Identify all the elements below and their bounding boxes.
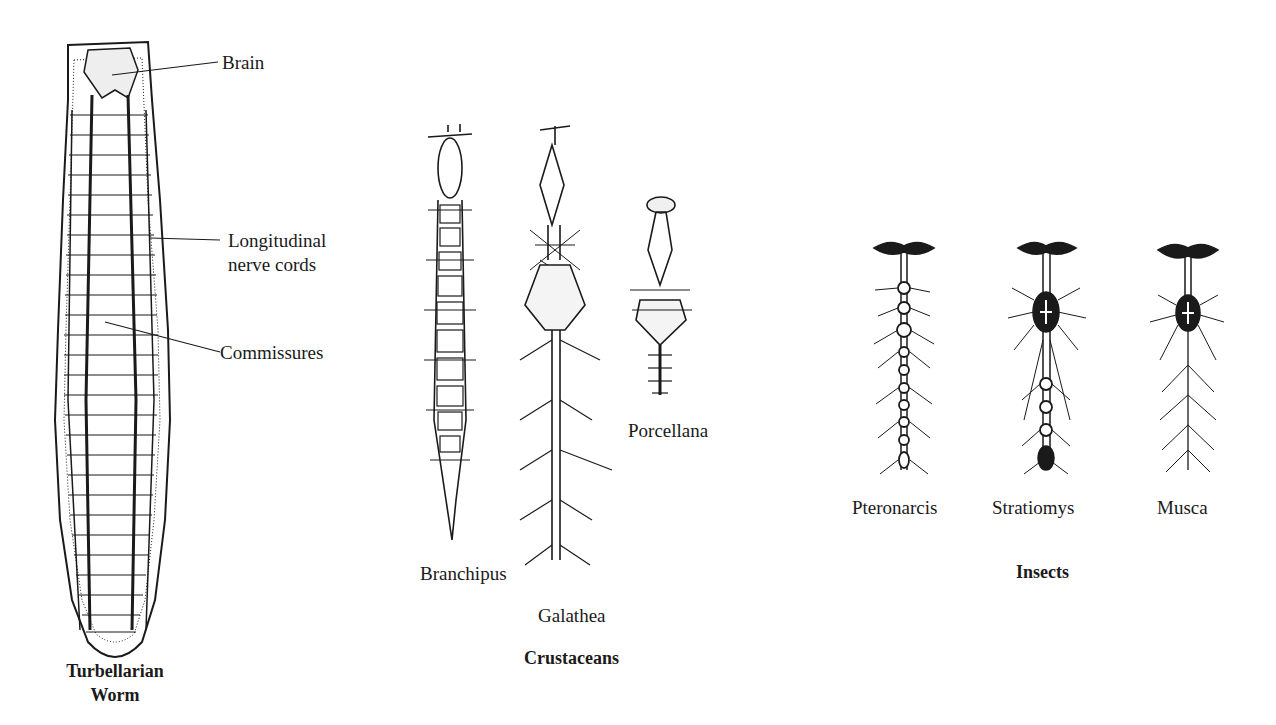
insects-group-label: Insects xyxy=(1016,561,1069,583)
musca-drawing xyxy=(1150,244,1224,472)
galathea-drawing xyxy=(520,126,612,565)
porcellana-label: Porcellana xyxy=(628,420,708,442)
branchipus-label: Branchipus xyxy=(420,563,507,585)
turbellarian-title-line1: Turbellarian xyxy=(40,660,190,682)
pteronarcis-label: Pteronarcis xyxy=(852,497,937,519)
branchipus-drawing xyxy=(424,124,476,540)
stratiomys-label: Stratiomys xyxy=(992,497,1074,519)
crustaceans-group-label: Crustaceans xyxy=(524,647,619,669)
longitudinal-callout-line2: nerve cords xyxy=(228,254,316,276)
turbellarian-worm-drawing xyxy=(55,42,220,657)
commissures-callout-label: Commissures xyxy=(220,342,323,364)
turbellarian-title-line2: Worm xyxy=(40,684,190,706)
longitudinal-callout-line1: Longitudinal xyxy=(228,230,326,252)
pteronarcis-drawing xyxy=(874,242,934,474)
porcellana-drawing xyxy=(630,197,692,395)
musca-label: Musca xyxy=(1157,497,1208,519)
nervous-system-illustrations xyxy=(0,0,1276,725)
brain-callout-label: Brain xyxy=(222,52,264,74)
galathea-label: Galathea xyxy=(538,605,606,627)
stratiomys-drawing xyxy=(1008,242,1086,474)
